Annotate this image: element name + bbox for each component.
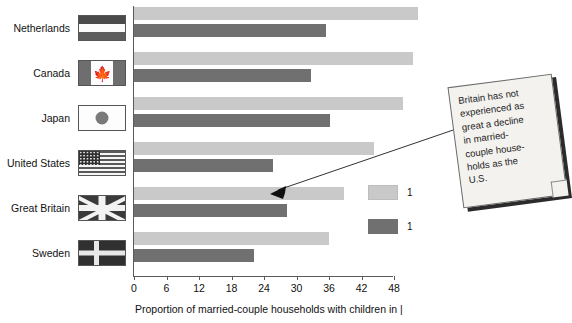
bar: [134, 249, 254, 262]
x-axis-tick-label: 36: [323, 282, 335, 294]
x-axis-tick-label: 42: [356, 282, 368, 294]
x-axis-tick-label: 24: [258, 282, 270, 294]
x-axis-tick-label: 48: [388, 282, 400, 294]
category-row-united-states: United States: [0, 141, 126, 185]
x-axis-label: Proportion of married-couple households …: [135, 303, 403, 315]
legend-entry[interactable]: 1: [368, 184, 413, 201]
x-axis-tick-label: 6: [164, 282, 170, 294]
bar: [134, 142, 374, 155]
legend-swatch-series-2: [368, 219, 398, 234]
legend-entry[interactable]: 1: [368, 218, 413, 235]
category-row-japan: Japan: [0, 96, 126, 140]
x-axis-tick: [199, 276, 200, 280]
x-axis-tick: [232, 276, 233, 280]
x-axis-tick: [362, 276, 363, 280]
category-row-netherlands: Netherlands: [0, 6, 126, 50]
annotation-note: Britain has not experienced as great a d…: [447, 74, 567, 209]
x-axis-tick: [297, 276, 298, 280]
category-row-great-britain: Great Britain: [0, 186, 126, 230]
great-britain-flag-icon: [78, 195, 126, 221]
bar: [134, 187, 344, 200]
x-axis-tick: [134, 276, 135, 280]
category-row-canada: Canada 🍁: [0, 51, 126, 95]
sweden-flag-icon: [78, 240, 126, 266]
category-label: Great Britain: [11, 203, 74, 214]
legend: 1 1: [368, 184, 413, 252]
category-label: Sweden: [32, 248, 74, 259]
x-axis-line: [133, 276, 393, 277]
japan-flag-icon: [78, 105, 126, 131]
x-axis-tick-label: 0: [131, 282, 137, 294]
bar: [134, 204, 287, 217]
x-axis-tick: [264, 276, 265, 280]
x-axis-tick: [394, 276, 395, 280]
x-axis-tick-label: 18: [226, 282, 238, 294]
category-label: Netherlands: [13, 23, 74, 34]
netherlands-flag-icon: [78, 15, 126, 41]
bar: [134, 97, 403, 110]
x-axis-tick-label: 30: [291, 282, 303, 294]
united-states-flag-icon: [78, 150, 126, 176]
bar: [134, 7, 418, 20]
canada-flag-icon: 🍁: [78, 60, 126, 86]
x-axis-tick-label: 12: [193, 282, 205, 294]
category-label: Japan: [41, 113, 74, 124]
bar: [134, 69, 311, 82]
category-label: United States: [7, 158, 74, 169]
bar: [134, 232, 329, 245]
x-axis-tick: [167, 276, 168, 280]
category-label: Canada: [33, 68, 74, 79]
note-text: Britain has not experienced as great a d…: [457, 83, 557, 188]
x-axis-tick: [329, 276, 330, 280]
note-folded-corner-icon: [551, 180, 569, 198]
bar: [134, 24, 326, 37]
bar: [134, 159, 273, 172]
legend-label: 1: [407, 187, 413, 198]
legend-label: 1: [407, 221, 413, 232]
bar: [134, 52, 413, 65]
bar: [134, 114, 330, 127]
legend-swatch-series-1: [368, 185, 398, 200]
category-row-sweden: Sweden: [0, 231, 126, 275]
